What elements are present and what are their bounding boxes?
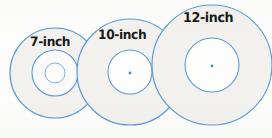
seven-inch-inner-circle xyxy=(45,63,65,83)
diagram-canvas: 7-inch 10-inch 12-inch xyxy=(0,0,272,138)
twelve-inch-center-dot xyxy=(211,65,214,68)
ten-inch-label: 10-inch xyxy=(98,29,146,42)
seven-inch-label: 7-inch xyxy=(30,36,70,49)
ten-inch-center-dot xyxy=(129,72,132,75)
twelve-inch-label: 12-inch xyxy=(183,12,233,26)
